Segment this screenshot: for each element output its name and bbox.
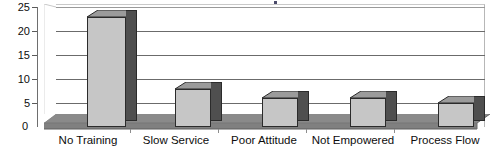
bar-top-face-poor-attitude bbox=[262, 91, 298, 98]
bar-front-face-not-empowered bbox=[350, 98, 386, 127]
y-tick-mark-10 bbox=[32, 79, 37, 80]
bar-not-empowered[interactable] bbox=[350, 92, 386, 127]
bar-front-face-poor-attitude bbox=[262, 98, 298, 127]
x-axis: No Training Slow Service Poor Attitude N… bbox=[44, 132, 490, 151]
x-tick-3 bbox=[306, 129, 307, 133]
y-tick-label-25: 25 bbox=[18, 2, 30, 13]
bar-side-face-poor-attitude bbox=[298, 91, 309, 121]
bars-layer bbox=[44, 4, 485, 127]
bar-front-face-slow-service bbox=[175, 89, 211, 127]
bar-top-face-process-flow bbox=[438, 96, 474, 103]
y-tick-label-10: 10 bbox=[18, 74, 30, 85]
x-label-not-empowered: Not Empowered bbox=[306, 134, 400, 147]
x-label-poor-attitude: Poor Attitude bbox=[220, 134, 308, 147]
bar-slow-service[interactable] bbox=[175, 83, 211, 127]
y-tick-mark-25 bbox=[32, 7, 37, 8]
y-tick-mark-15 bbox=[32, 55, 37, 56]
bar-top-face-slow-service bbox=[175, 82, 211, 89]
y-tick-mark-20 bbox=[32, 31, 37, 32]
y-tick-label-5: 5 bbox=[24, 98, 30, 109]
y-tick-mark-5 bbox=[32, 103, 37, 104]
x-label-no-training: No Training bbox=[44, 134, 132, 147]
x-label-process-flow: Process Flow bbox=[400, 134, 490, 147]
bar-front-face-no-training bbox=[87, 17, 126, 127]
x-tick-4 bbox=[394, 129, 395, 133]
bar-side-face-no-training bbox=[126, 10, 137, 121]
y-axis: 25 20 15 10 5 bbox=[0, 0, 44, 133]
y-tick-label-15: 15 bbox=[18, 50, 30, 61]
bar-no-training[interactable] bbox=[87, 11, 126, 127]
bar-chart: 25 20 15 10 5 0 bbox=[0, 0, 490, 151]
bar-top-face-no-training bbox=[87, 10, 126, 17]
bar-front-face-process-flow bbox=[438, 103, 474, 127]
bar-process-flow[interactable] bbox=[438, 97, 474, 127]
bar-top-face-not-empowered bbox=[350, 91, 386, 98]
bar-poor-attitude[interactable] bbox=[262, 92, 298, 127]
y-tick-label-20: 20 bbox=[18, 26, 30, 37]
y-axis-line bbox=[37, 7, 38, 127]
y-tick-label-0: 0 bbox=[22, 121, 28, 132]
x-tick-2 bbox=[218, 129, 219, 133]
x-label-slow-service: Slow Service bbox=[132, 134, 220, 147]
bar-side-face-not-empowered bbox=[386, 91, 397, 121]
bar-side-face-process-flow bbox=[474, 96, 485, 121]
x-tick-1 bbox=[130, 129, 131, 133]
bar-side-face-slow-service bbox=[211, 82, 222, 121]
